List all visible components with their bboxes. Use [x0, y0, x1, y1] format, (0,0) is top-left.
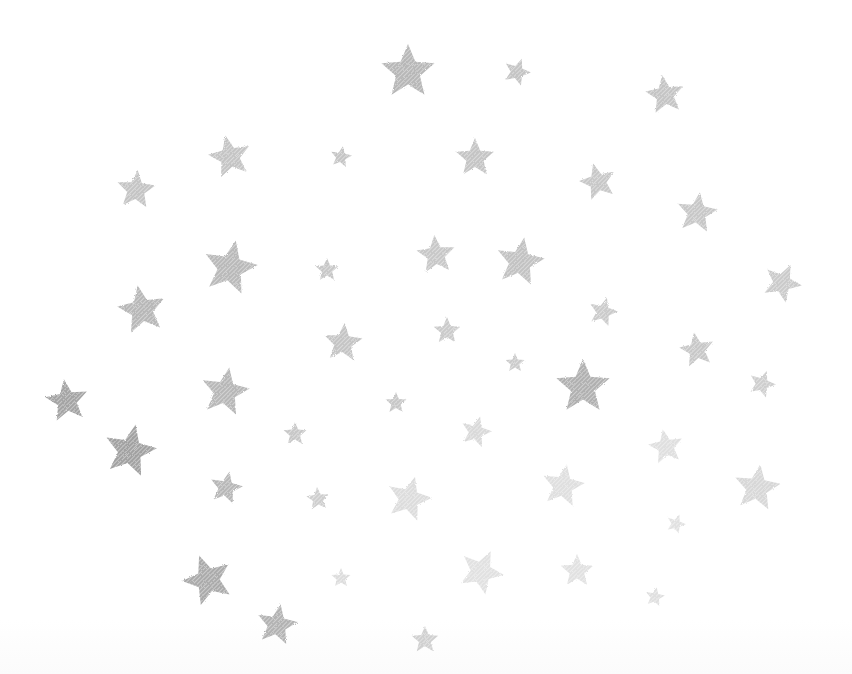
star-icon: [203, 367, 250, 414]
star-icon: [556, 359, 609, 410]
star-icon: [590, 298, 618, 327]
star-icon: [208, 136, 249, 178]
star-icon: [284, 422, 307, 444]
star-icon: [645, 75, 683, 113]
star-icon: [461, 551, 504, 594]
star-icon: [668, 515, 686, 534]
star-icon: [45, 379, 87, 420]
star-icon: [182, 556, 230, 605]
star-icon: [579, 164, 614, 200]
star-icon: [206, 241, 258, 294]
star-icon: [456, 138, 494, 174]
star-icon: [386, 392, 407, 412]
star-icon: [412, 626, 439, 651]
star-icon: [544, 464, 585, 506]
star-icon: [750, 371, 776, 398]
star-icon: [434, 317, 461, 342]
star-icon: [390, 477, 432, 521]
star-icon: [332, 568, 351, 586]
star-icon: [765, 265, 802, 303]
star-icon: [306, 487, 329, 509]
star-icon: [505, 59, 531, 86]
star-icon: [678, 192, 718, 231]
star-icon: [679, 332, 713, 366]
star-icon: [325, 323, 363, 360]
star-icon: [331, 146, 352, 167]
stars-layer: [0, 0, 852, 674]
star-icon: [417, 235, 455, 272]
star-icon: [316, 258, 339, 280]
star-icon: [735, 464, 780, 509]
star-icon: [498, 237, 545, 284]
star-icon: [211, 471, 243, 503]
star-icon: [506, 353, 525, 371]
star-icon: [118, 170, 156, 207]
star-icon: [381, 44, 434, 95]
star-icon: [107, 425, 157, 476]
star-icon: [646, 587, 665, 606]
star-icon: [259, 604, 298, 644]
star-icon: [648, 429, 682, 463]
star-icon: [561, 554, 593, 585]
star-pattern-canvas: [0, 0, 852, 674]
star-icon: [117, 285, 164, 332]
star-icon: [463, 417, 492, 447]
